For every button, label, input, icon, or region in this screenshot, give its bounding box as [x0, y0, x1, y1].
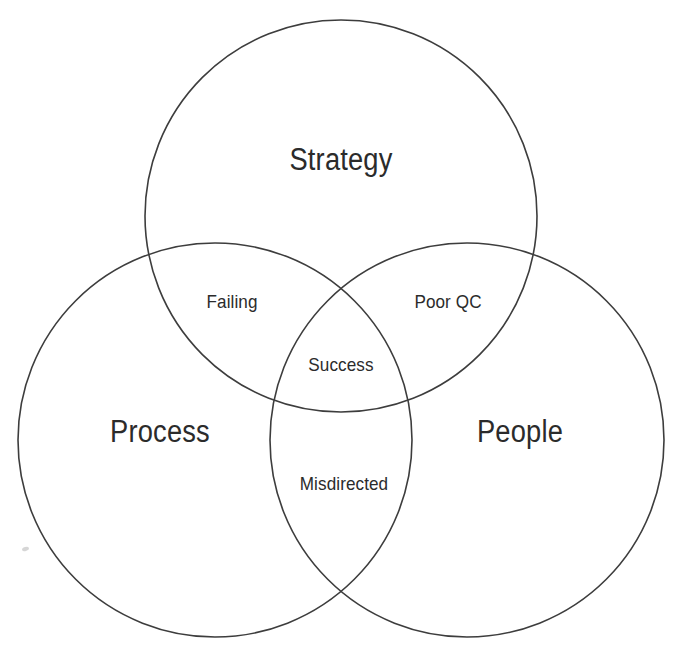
venn-diagram-canvas: Strategy Process People Failing Poor QC …: [0, 0, 682, 654]
set-label-strategy: Strategy: [289, 142, 392, 178]
intersection-label-failing: Failing: [206, 291, 257, 313]
intersection-label-poor-qc: Poor QC: [414, 291, 481, 313]
set-label-process: Process: [110, 414, 210, 450]
venn-circles-svg: [0, 0, 682, 654]
set-label-people: People: [477, 414, 563, 450]
intersection-label-misdirected: Misdirected: [300, 473, 388, 495]
intersection-label-success: Success: [308, 354, 373, 376]
